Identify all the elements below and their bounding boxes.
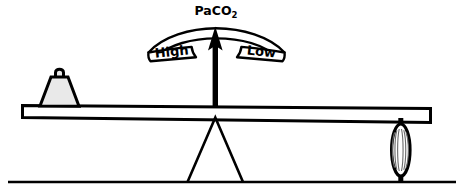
- spring-element: [392, 118, 410, 182]
- gauge-title: PaCO2: [195, 3, 238, 20]
- figure-root: PaCO2 High Low: [0, 0, 464, 193]
- paco2-seesaw-diagram: PaCO2 High Low: [0, 0, 464, 193]
- gauge-label-low: Low: [246, 43, 277, 61]
- spring-body: [392, 124, 410, 176]
- gauge-title-main: PaCO: [195, 3, 232, 18]
- gauge-title-subscript: 2: [232, 10, 238, 20]
